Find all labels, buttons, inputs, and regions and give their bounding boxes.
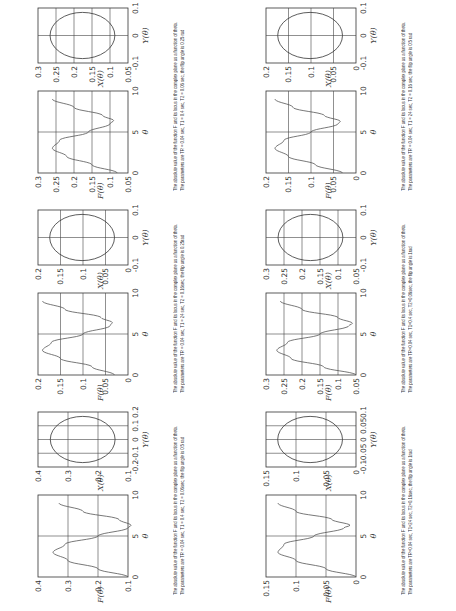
x-tick-label: 0.3 xyxy=(34,66,43,78)
y-tick-label: 0.1 xyxy=(131,3,140,14)
figure-panel: 00.050.10.150510θF(θ)00.050.10.15-0.1-0.… xyxy=(228,407,456,607)
f-theta-plot: 00.050.10.150.20510θF(θ) xyxy=(262,86,379,200)
x-axis-label: X(θ) xyxy=(324,272,333,290)
x-axis-label: X(θ) xyxy=(96,272,105,290)
figure-panel: 0.050.10.150.20.250.30510θF(θ)0.050.10.1… xyxy=(0,3,228,203)
y-tick-label: 0.1 xyxy=(359,205,368,216)
y-tick-label: 0 xyxy=(131,33,140,38)
x-tick-label: 0.1 xyxy=(106,66,115,78)
theta-axis-label: θ xyxy=(369,129,378,134)
caption-line-1: The absolute value of the function F and… xyxy=(172,16,179,191)
y-tick-label: 0.1 xyxy=(359,3,368,14)
y-axis-label: Y(θ) xyxy=(369,431,378,447)
x-tick-label: 0.25 xyxy=(52,66,61,83)
f-tick-label: 0.25 xyxy=(280,378,289,395)
theta-axis-label: θ xyxy=(369,331,378,336)
locus-plot: 00.050.10.150.2-0.100.1Y(θ)X(θ) xyxy=(34,205,151,290)
theta-axis-label: θ xyxy=(141,331,150,336)
caption-line-2: The parameters are TR = 0.04 sec, T1 = 0… xyxy=(179,16,186,191)
y-axis-label: Y(θ) xyxy=(369,229,378,245)
y-axis-label: Y(θ) xyxy=(141,229,150,245)
x-tick-label: 0.1 xyxy=(334,268,343,280)
y-tick-label: 0 xyxy=(359,33,368,38)
theta-tick-label: 0 xyxy=(131,574,140,579)
f-theta-plot: 00.050.10.150.20510θF(θ) xyxy=(34,288,151,402)
caption-line-1: The absolute value of the function F and… xyxy=(172,420,179,595)
x-axis-label: X(θ) xyxy=(324,474,333,492)
x-tick-label: 0.4 xyxy=(34,470,43,482)
x-tick-label: 0.2 xyxy=(262,66,271,78)
theta-axis-label: θ xyxy=(141,129,150,134)
f-theta-plot: 0.050.10.150.20.250.30510θF(θ) xyxy=(34,86,151,200)
theta-tick-label: 5 xyxy=(359,533,368,538)
theta-tick-label: 5 xyxy=(359,129,368,134)
x-tick-label: 0.2 xyxy=(34,268,43,280)
y-tick-label: 0 xyxy=(359,235,368,240)
f-theta-curve xyxy=(275,99,343,173)
theta-axis-label: θ xyxy=(141,533,150,538)
y-tick-label: 0 xyxy=(131,235,140,240)
y-tick-label: -0.1 xyxy=(131,257,140,272)
locus-plot: 0.050.10.150.20.250.3-0.100.1Y(θ)X(θ) xyxy=(262,205,379,290)
f-tick-label: 0.15 xyxy=(262,580,271,597)
theta-tick-label: 5 xyxy=(131,129,140,134)
caption-line-1: The absolute value of the function F and… xyxy=(400,420,407,595)
theta-axis-label: θ xyxy=(369,533,378,538)
f-tick-label: 0.15 xyxy=(56,378,65,395)
plot-svg: 00.050.10.150510θF(θ)00.050.10.15-0.1-0.… xyxy=(228,407,400,607)
figure-panel: 00.050.10.150.20510θF(θ)00.050.10.150.2-… xyxy=(228,3,456,203)
f-tick-label: 0 xyxy=(352,580,361,585)
theta-tick-label: 10 xyxy=(131,490,140,500)
y-tick-label: -0.1 xyxy=(359,55,368,70)
f-theta-curve xyxy=(277,301,356,375)
x-tick-label: 0.2 xyxy=(298,268,307,280)
caption-line-2: The parameters are TR=0.04 sec, T1=24 se… xyxy=(407,420,414,595)
x-tick-label: 0.3 xyxy=(64,470,73,482)
f-tick-label: 0.15 xyxy=(284,176,293,193)
theta-tick-label: 10 xyxy=(131,288,140,298)
f-tick-label: 0.1 xyxy=(292,580,301,592)
figure-panel: 0.10.20.30.40510θF(θ)0.10.20.30.4-0.2-0.… xyxy=(0,407,228,607)
figure-caption: The absolute value of the function F and… xyxy=(172,203,186,393)
f-axis-label: F(θ) xyxy=(324,182,333,200)
theta-tick-label: 10 xyxy=(359,86,368,96)
f-tick-label: 0.1 xyxy=(106,176,115,188)
f-theta-curve xyxy=(278,503,356,577)
f-tick-label: 0.3 xyxy=(64,580,73,592)
caption-line-1: The absolute value of the function F and… xyxy=(400,218,407,393)
figure-panel: 00.050.10.150.20510θF(θ)00.050.10.150.2-… xyxy=(0,205,228,405)
x-tick-label: 0.1 xyxy=(79,268,88,280)
f-tick-label: 0.3 xyxy=(262,378,271,390)
f-theta-curve xyxy=(53,503,131,577)
theta-tick-label: 10 xyxy=(359,490,368,500)
f-tick-label: 0.25 xyxy=(52,176,61,193)
f-axis-label: F(θ) xyxy=(96,586,105,604)
x-axis-label: X(θ) xyxy=(324,70,333,88)
theta-tick-label: 10 xyxy=(131,86,140,96)
x-tick-label: 0.3 xyxy=(262,268,271,280)
theta-tick-label: 5 xyxy=(131,533,140,538)
y-tick-label: 0 xyxy=(131,437,140,442)
figure-caption: The absolute value of the function F and… xyxy=(400,1,414,191)
figure-row-bottom: 00.050.10.150510θF(θ)00.050.10.15-0.1-0.… xyxy=(228,0,456,611)
y-axis-label: Y(θ) xyxy=(369,27,378,43)
f-tick-label: 0.2 xyxy=(298,378,307,390)
y-tick-label: 0.1 xyxy=(131,420,140,432)
f-tick-label: 0.05 xyxy=(124,176,133,193)
caption-line-2: The parameters are TR = 0.04 sec, T1 = 2… xyxy=(407,16,414,191)
theta-tick-label: 5 xyxy=(359,331,368,336)
figure-row-top: 0.10.20.30.40510θF(θ)0.10.20.30.4-0.2-0.… xyxy=(0,0,228,611)
y-tick-label: -0.1 xyxy=(131,446,140,461)
caption-line-1: The absolute value of the function F and… xyxy=(172,218,179,393)
f-axis-label: F(θ) xyxy=(324,586,333,604)
y-tick-label: -0.05 xyxy=(359,443,368,463)
f-theta-curve xyxy=(43,301,115,375)
x-tick-label: 0.25 xyxy=(280,268,289,285)
theta-tick-label: 10 xyxy=(359,288,368,298)
f-tick-label: 0 xyxy=(352,176,361,181)
theta-tick-label: 5 xyxy=(131,331,140,336)
figure-caption: The absolute value of the function F and… xyxy=(172,405,186,595)
y-tick-label: -0.2 xyxy=(131,459,140,474)
rotated-page: 0.10.20.30.40510θF(θ)0.10.20.30.4-0.2-0.… xyxy=(0,0,456,611)
f-axis-label: F(θ) xyxy=(96,384,105,402)
